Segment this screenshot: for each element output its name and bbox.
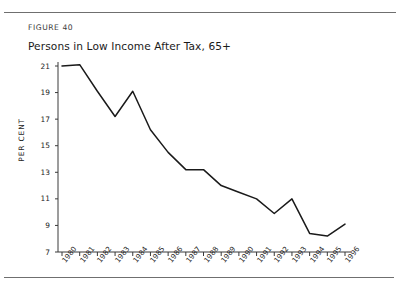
y-axis-tick-label: 9 [34, 221, 50, 230]
data-series-line [62, 65, 345, 236]
y-axis-tick-label: 17 [34, 115, 50, 124]
y-axis-title: PER CENT [17, 118, 26, 162]
y-axis-tick-label: 15 [34, 141, 50, 150]
y-axis-tick-label: 11 [34, 194, 50, 203]
y-axis-tick-label: 21 [34, 62, 50, 71]
bottom-divider-rule [4, 277, 394, 278]
y-axis-tick-label: 19 [34, 88, 50, 97]
y-axis-tick-label: 13 [34, 168, 50, 177]
figure-page: ­ ­ ­ FIGURE 40 Persons in Low Income Af… [0, 0, 400, 296]
y-axis-tick-label: 7 [34, 248, 50, 257]
